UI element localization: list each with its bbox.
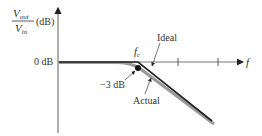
y-axis-label: Vout Vin (dB) [12, 7, 54, 36]
actual-pointer [145, 78, 151, 94]
cutoff-frequency-label: fc [134, 45, 141, 59]
ideal-label: Ideal [157, 32, 177, 43]
actual-label: Actual [133, 95, 160, 106]
minus3db-label: −3 dB [100, 79, 125, 90]
frequency-response-diagram: Vout Vin (dB) 0 dB f fc Ideal −3 dB Actu… [0, 0, 262, 136]
minus3db-pointer [125, 71, 135, 80]
zero-db-label: 0 dB [34, 56, 54, 67]
svg-text:(dB): (dB) [36, 16, 54, 28]
svg-text:Vin: Vin [15, 22, 28, 36]
ideal-response-curve [59, 62, 212, 121]
actual-response-curve [59, 63, 214, 125]
cutoff-point [135, 65, 141, 71]
x-axis-label: f [246, 56, 251, 68]
svg-text:Vout: Vout [13, 7, 30, 21]
